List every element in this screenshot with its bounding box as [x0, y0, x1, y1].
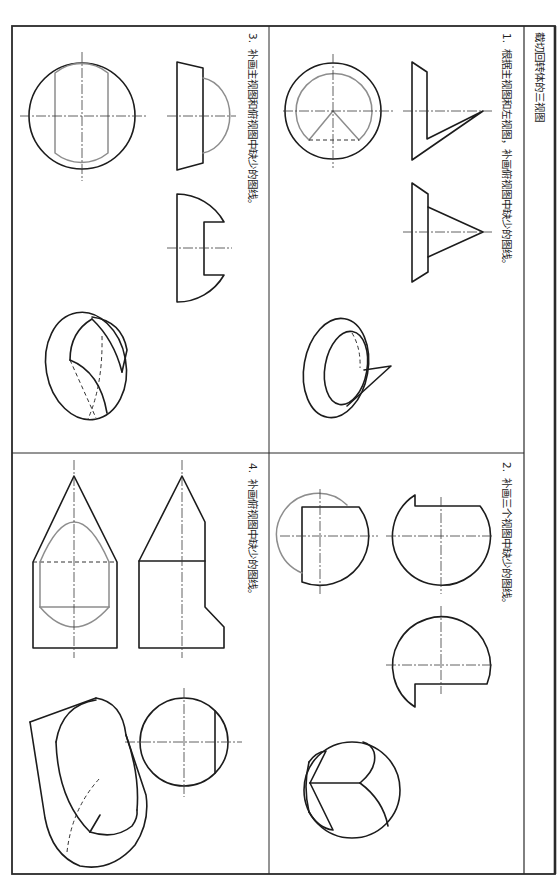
task-4-drawings: [30, 460, 242, 867]
task-4-front-view: [139, 460, 224, 658]
cut-edge-upper: [360, 742, 375, 783]
added-arc: [203, 78, 230, 153]
outline-base: [412, 183, 428, 282]
hidden-arc: [67, 778, 100, 852]
task-4-left-view: [125, 688, 242, 797]
task-2-drawings: [277, 489, 492, 838]
task-2-text: 补画三个视图中缺少的图线。: [501, 478, 513, 608]
worksheet-page: 截切回转体的三视图 1.根据主视图和左视图，补画俯视图中缺少的图线。 2.补画三…: [0, 0, 557, 875]
outline: [302, 507, 369, 585]
task-2-view-1: [277, 489, 378, 594]
task-3-front-view: [167, 62, 236, 170]
task-1-number: 1.: [501, 33, 513, 43]
task-2-view-2: [386, 495, 492, 594]
hidden-line-1: [70, 360, 96, 418]
cut-v-right: [90, 810, 137, 835]
worksheet-title: 截切回转体的三视图: [533, 32, 546, 122]
cut-edge-lower: [360, 783, 388, 826]
task-1-top-view: [283, 54, 393, 168]
task-2-instruction: 2.补画三个视图中缺少的图线。: [500, 462, 513, 608]
cut-right-curve: [126, 735, 138, 810]
added-v-lines: [309, 111, 359, 140]
task-1-left-view: [403, 183, 492, 282]
task-4-top-view: [33, 460, 117, 658]
outer-silhouette: [30, 698, 147, 867]
added-arc: [296, 73, 372, 140]
outline: [392, 495, 490, 585]
task-3-top-view: [20, 52, 146, 181]
worksheet-drawing-canvas: [0, 0, 557, 875]
added-arc: [277, 493, 347, 573]
added-lower-curve: [40, 607, 109, 627]
task-1-front-view: [403, 62, 492, 160]
cut-edge-4: [70, 360, 107, 413]
task-3-drawings: [20, 52, 236, 426]
cut-upper-arc: [56, 700, 96, 742]
cut-wedge: [347, 366, 391, 406]
hidden-curve: [352, 333, 360, 368]
task-3-number: 3.: [247, 33, 259, 43]
task-2-view-3: [386, 606, 492, 707]
outline: [393, 617, 491, 707]
cut-edge-2: [92, 319, 122, 372]
task-3-text: 补画主视图和俯视图中缺少的图线。: [247, 49, 259, 209]
cut-edge-1: [70, 319, 92, 360]
task-1-text: 根据主视图和左视图，补画俯视图中缺少的图线。: [501, 49, 513, 269]
task-3-left-view: [167, 194, 232, 302]
cut-v-left: [90, 815, 100, 832]
outer-ellipse: [296, 313, 376, 423]
cut-edge-left-lower: [309, 783, 333, 830]
worksheet-frame: [12, 26, 555, 874]
outline: [139, 476, 224, 648]
task-2-pictorial: [304, 742, 400, 838]
cut-left-curve: [56, 742, 90, 832]
task-4-pictorial: [30, 698, 147, 867]
task-4-number: 4.: [247, 463, 259, 473]
outer-border: [12, 26, 555, 874]
task-3-instruction: 3.补画主视图和俯视图中缺少的图线。: [246, 33, 259, 209]
task-1-instruction: 1.根据主视图和左视图，补画俯视图中缺少的图线。: [500, 33, 513, 269]
task-4-instruction: 4.补画俯视图中缺少的图线。: [246, 463, 259, 599]
hidden-line-2: [88, 336, 102, 419]
added-upper-curve: [40, 522, 109, 562]
task-3-pictorial: [37, 306, 135, 426]
added-cut-outline: [55, 64, 108, 163]
task-4-text: 补画俯视图中缺少的图线。: [247, 479, 259, 599]
task-1-pictorial: [296, 313, 391, 423]
added-side-lines: [40, 562, 109, 607]
task-1-drawings: [283, 54, 492, 423]
task-2-number: 2.: [501, 462, 513, 472]
